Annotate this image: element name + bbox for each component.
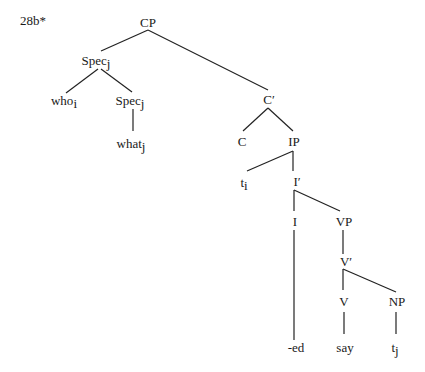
edge-ibar-vp <box>294 190 340 211</box>
edge-cp-spec1 <box>101 30 148 51</box>
node-np: NP <box>389 294 406 309</box>
node-ti: ti <box>240 175 248 193</box>
syntax-tree: CP Specj whoi Specj whatj C′ C IP ti I′ … <box>0 0 425 372</box>
node-vbar: V′ <box>340 254 352 269</box>
node-say: say <box>336 340 354 355</box>
node-spec2: Specj <box>116 93 145 111</box>
node-vp: VP <box>336 214 353 229</box>
edge-spec1-spec2 <box>101 69 132 92</box>
tree-nodes: CP Specj whoi Specj whatj C′ C IP ti I′ … <box>51 15 405 358</box>
node-ip: IP <box>288 134 300 149</box>
node-who: whoi <box>51 93 77 111</box>
edge-ip-ti <box>247 151 293 171</box>
edge-cbar-ip <box>268 108 293 131</box>
node-cp: CP <box>140 15 156 30</box>
edge-vbar-np <box>343 269 396 292</box>
node-v: V <box>339 294 349 309</box>
node-c: C <box>238 134 247 149</box>
node-what: whatj <box>117 136 146 154</box>
node-tj: tj <box>391 340 398 358</box>
node-spec1: Specj <box>82 53 111 71</box>
edge-cp-cbar <box>148 30 268 90</box>
node-i: I <box>293 214 297 229</box>
node-ibar: I′ <box>293 174 300 189</box>
node-cbar: C′ <box>263 92 275 107</box>
edge-spec1-who <box>66 69 98 93</box>
edge-cbar-c <box>243 108 268 131</box>
node-ed: -ed <box>288 340 305 355</box>
